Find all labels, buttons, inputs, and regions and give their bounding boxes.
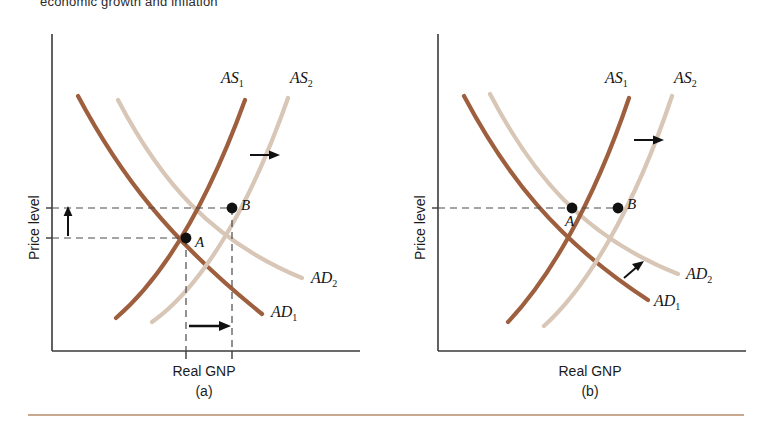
panel-a-y-ticks [46,208,52,238]
panel-b-label-ad1: AD1 [654,292,680,312]
panel-b-label-as2: AS2 [674,69,697,89]
panel-b-point-a [567,203,578,214]
panel-a-curve-as2 [152,98,288,322]
panel-b-ad-shift-arrow [624,261,644,278]
panel-b-label-as1: AS1 [605,69,628,89]
panel-a-y-axis-label: Price level [26,195,42,260]
panel-a-label-ad2: AD2 [311,269,337,289]
panel-a-label-ad1: AD1 [271,303,297,323]
panel-a-x-axis-label: Real GNP [124,363,284,379]
panel-a-point-label-a: A [195,234,204,251]
panel-b-letter: (b) [510,383,670,399]
panel-b-point-label-a: A [565,213,574,230]
panel-b-plot [386,0,772,420]
panel-a-price-level-up-arrow [64,206,73,236]
chart-panel-b: Price level [386,0,772,420]
panel-a-point-label-b: B [241,197,250,214]
panel-b-point-label-b: B [627,196,636,213]
panel-a-real-gnp-right-arrow [189,321,231,331]
figure-bottom-rule [28,414,744,416]
panel-a-label-as1: AS1 [221,69,244,89]
panel-a-guides [52,208,232,351]
panel-a-label-as2: AS2 [290,69,313,89]
panel-a-plot [0,0,386,420]
panel-a-letter: (a) [124,383,284,399]
panel-b-point-b [613,203,624,214]
panel-a-point-b [227,203,238,214]
panel-a-x-ticks [186,351,232,359]
panel-b-label-ad2: AD2 [686,265,712,285]
panel-a-curve-ad2 [118,100,302,278]
chart-panel-a: Price level [0,0,386,420]
panel-b-y-axis-label: Price level [412,195,428,260]
panel-a-point-a [181,233,192,244]
figure-container: economic growth and inflation Price leve… [0,0,772,433]
panel-b-x-axis-label: Real GNP [510,363,670,379]
panel-b-curve-as2 [544,96,672,326]
